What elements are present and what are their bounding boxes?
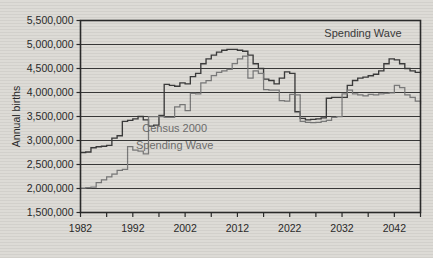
y-tick-label: 2,500,000: [27, 158, 74, 170]
census-2000-legend: Census 2000: [142, 122, 207, 134]
x-tick-label: 2032: [330, 222, 354, 234]
spending-wave-top: Spending Wave: [324, 27, 401, 39]
y-tick-label: 2,000,000: [27, 182, 74, 194]
x-tick-label: 2002: [173, 222, 197, 234]
x-tick-label: 2012: [226, 222, 250, 234]
chart-canvas: 5,500,0005,000,0004,500,0004,000,0003,50…: [0, 0, 433, 258]
y-tick-label: 4,500,000: [27, 62, 74, 74]
y-tick-label: 3,000,000: [27, 134, 74, 146]
y-tick-label: 5,500,000: [27, 14, 74, 26]
spending-wave-legend: Spending Wave: [136, 139, 213, 151]
births-chart: 5,500,0005,000,0004,500,0004,000,0003,50…: [0, 0, 433, 258]
x-tick-label: 2022: [278, 222, 302, 234]
y-axis-label: Annual births: [10, 86, 22, 147]
y-tick-label: 5,000,000: [27, 38, 74, 50]
y-tick-label: 1,500,000: [27, 206, 74, 218]
x-tick-label: 1992: [121, 222, 145, 234]
y-tick-label: 4,000,000: [27, 86, 74, 98]
y-tick-labels: 5,500,0005,000,0004,500,0004,000,0003,50…: [27, 14, 74, 218]
y-tick-label: 3,500,000: [27, 110, 74, 122]
x-tick-label: 2042: [383, 222, 407, 234]
x-tick-label: 1982: [69, 222, 93, 234]
